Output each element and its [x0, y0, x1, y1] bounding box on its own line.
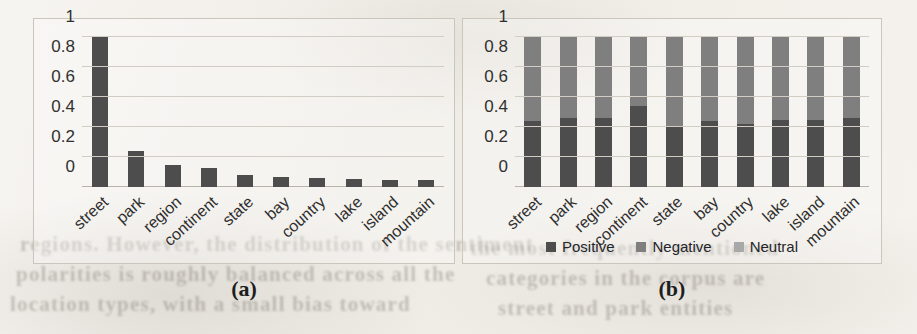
legend-item-negative: Negative: [636, 238, 711, 255]
bar-segment-negative: [843, 37, 860, 118]
bar-segment-positive: [524, 121, 541, 187]
bar-slot: [586, 37, 621, 187]
gridline: [82, 156, 444, 157]
bar-segment-negative: [701, 37, 718, 121]
chart-panel-a: 00.20.40.60.81 streetparkregioncontinent…: [33, 18, 455, 264]
bar-slot: [154, 37, 190, 187]
x-label-slot: street: [82, 191, 118, 261]
stacked-bar: [843, 37, 860, 187]
bar-segment-negative: [524, 37, 541, 121]
gridline: [82, 66, 444, 67]
y-axis-tick-label: 0.8: [51, 37, 75, 57]
y-axis-tick-label: 1: [499, 7, 508, 27]
legend-swatch-icon: [734, 242, 744, 252]
bar-slot: [515, 37, 550, 187]
plot-area-b: 00.20.40.60.81: [515, 37, 869, 187]
x-label-slot: continent: [191, 191, 227, 261]
bar-slot: [82, 37, 118, 187]
bar-slot: [118, 37, 154, 187]
bar-slot: [727, 37, 762, 187]
figure-two-panel-charts: 00.20.40.60.81 streetparkregioncontinent…: [0, 0, 917, 334]
stacked-bar: [560, 37, 577, 187]
bar-segment-positive: [807, 120, 824, 188]
bar-segment-negative: [560, 37, 577, 118]
panel-b-caption: (b): [642, 276, 702, 302]
bar-segment-negative: [595, 37, 612, 118]
legend-swatch-icon: [546, 242, 556, 252]
gridline: [515, 126, 869, 127]
bar-slot: [263, 37, 299, 187]
y-axis-tick-label: 0: [499, 157, 508, 177]
bar-segment-positive: [772, 120, 789, 188]
stacked-bar-series-b: [515, 37, 869, 187]
bar-segment-negative: [666, 37, 683, 126]
bar-slot: [692, 37, 727, 187]
bar-slot: [227, 37, 263, 187]
bar-slot: [798, 37, 833, 187]
stacked-bar: [772, 37, 789, 187]
y-axis-tick-label: 0.2: [51, 127, 75, 147]
x-label-slot: mountain: [408, 191, 444, 261]
gridline: [515, 96, 869, 97]
bar-segment-positive: [595, 118, 612, 187]
y-axis-tick-label: 0.6: [484, 67, 508, 87]
chart-panel-b: 00.20.40.60.81 streetparkregioncontinent…: [462, 18, 882, 264]
bar: [201, 168, 217, 188]
bar-slot: [408, 37, 444, 187]
y-axis-tick-label: 0.4: [51, 97, 75, 117]
bar-slot: [763, 37, 798, 187]
y-axis-tick-label: 1: [66, 7, 75, 27]
y-axis-tick-label: 0.4: [484, 97, 508, 117]
stacked-bar: [524, 37, 541, 187]
y-axis-tick-label: 0.2: [484, 127, 508, 147]
legend-swatch-icon: [636, 242, 646, 252]
panel-a-caption: (a): [214, 276, 274, 302]
bar-segment-positive: [701, 121, 718, 187]
x-axis-tick-label: street: [503, 193, 545, 233]
gridline: [82, 36, 444, 37]
x-label-slot: state: [227, 191, 263, 261]
bar-slot: [191, 37, 227, 187]
legend-item-neutral: Neutral: [734, 238, 798, 255]
y-axis-tick-label: 0: [66, 157, 75, 177]
bar-slot: [657, 37, 692, 187]
bar: [92, 37, 108, 187]
legend-label: Negative: [652, 238, 711, 255]
bar-segment-negative: [772, 37, 789, 120]
bar-slot: [550, 37, 585, 187]
x-axis-tick-label: street: [70, 193, 112, 233]
x-axis-labels-a: streetparkregioncontinentstatebaycountry…: [82, 191, 444, 261]
stacked-bar: [807, 37, 824, 187]
legend-label: Neutral: [750, 238, 798, 255]
legend-item-positive: Positive: [546, 238, 615, 255]
stacked-bar: [666, 37, 683, 187]
gridline: [82, 126, 444, 127]
y-axis-tick-label: 0.8: [484, 37, 508, 57]
bar-slot: [299, 37, 335, 187]
x-label-slot: country: [299, 191, 335, 261]
bar-segment-positive: [560, 118, 577, 187]
stacked-bar: [701, 37, 718, 187]
bar-segment-positive: [630, 106, 647, 187]
bar-segment-negative: [737, 37, 754, 124]
stacked-bar: [630, 37, 647, 187]
stacked-bar: [595, 37, 612, 187]
bar-slot: [834, 37, 869, 187]
chart-legend-b: PositiveNegativeNeutral: [463, 238, 881, 255]
y-axis-tick-label: 0.6: [51, 67, 75, 87]
gridline: [515, 66, 869, 67]
bar-slot: [372, 37, 408, 187]
bar-segment-negative: [807, 37, 824, 120]
gridline: [82, 96, 444, 97]
bar-slot: [621, 37, 656, 187]
plot-area-a: 00.20.40.60.81: [82, 37, 444, 187]
gridline: [515, 156, 869, 157]
gridline: [515, 186, 869, 187]
stacked-bar: [737, 37, 754, 187]
legend-label: Positive: [562, 238, 615, 255]
gridline: [515, 36, 869, 37]
gridline: [82, 186, 444, 187]
bar: [165, 165, 181, 188]
bar-series-a: [82, 37, 444, 187]
bar-slot: [335, 37, 371, 187]
